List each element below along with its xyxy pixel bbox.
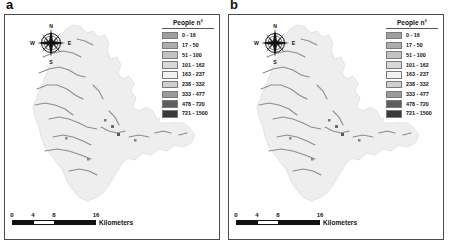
legend-swatch [386, 110, 402, 118]
legend-title-a: People n° [162, 19, 214, 29]
scalebar-unit-label: Kilometers [99, 219, 133, 227]
scale-tick: 0 [234, 211, 237, 219]
legend-item: 17 - 50 [162, 41, 214, 50]
scale-tick: 4 [255, 211, 258, 219]
scale-tick: 16 [317, 211, 324, 219]
legend-range-label: 333 - 477 [182, 91, 205, 98]
compass-label-east: E [292, 40, 296, 46]
legend-item: 721 - 1500 [386, 109, 438, 118]
legend-item: 333 - 477 [386, 90, 438, 99]
legend-swatch [162, 91, 178, 99]
legend-item: 17 - 50 [386, 41, 438, 50]
legend-swatch [162, 71, 178, 79]
legend-item: 238 - 332 [386, 80, 438, 89]
legend-range-label: 238 - 332 [182, 81, 205, 88]
map-panel-b: N S E W People n° 0 - 16 17 - 50 51 - 10… [228, 14, 444, 240]
scalebar-unit-label: Kilometers [323, 219, 357, 227]
legend-swatch [386, 42, 402, 50]
scalebar-ticks-a: 0 4 8 16 [12, 211, 137, 219]
panel-label-a: a [6, 0, 13, 12]
legend-range-label: 238 - 332 [406, 81, 429, 88]
legend-swatch [162, 81, 178, 89]
compass-rose-b: N S E W [253, 21, 297, 65]
legend-range-label: 0 - 16 [406, 32, 420, 39]
scalebar-a: 0 4 8 16 Kilometers [12, 211, 137, 233]
legend-swatch [162, 42, 178, 50]
compass-label-north: N [49, 23, 53, 29]
compass-label-west: W [254, 40, 259, 46]
legend-item: 101 - 162 [162, 60, 214, 69]
legend-item: 238 - 332 [162, 80, 214, 89]
legend-range-label: 721 - 1500 [182, 110, 208, 117]
legend-swatch [386, 61, 402, 69]
legend-item: 163 - 237 [162, 70, 214, 79]
scale-tick: 8 [52, 211, 55, 219]
scale-tick: 8 [276, 211, 279, 219]
legend-item: 163 - 237 [386, 70, 438, 79]
scale-segment [258, 221, 279, 224]
legend-a: People n° 0 - 16 17 - 50 51 - 100 101 - … [160, 17, 216, 122]
legend-range-label: 101 - 162 [406, 62, 429, 69]
legend-range-label: 17 - 50 [406, 42, 423, 49]
legend-swatch [162, 110, 178, 118]
legend-swatch [386, 91, 402, 99]
scale-tick: 16 [93, 211, 100, 219]
legend-range-label: 51 - 100 [406, 52, 426, 59]
scale-segment [278, 221, 319, 224]
scale-segment [34, 221, 55, 224]
legend-range-label: 163 - 237 [182, 71, 205, 78]
legend-range-label: 721 - 1500 [406, 110, 432, 117]
legend-range-label: 478 - 720 [182, 101, 205, 108]
scalebar-bar-b: Kilometers [236, 219, 361, 226]
scalebar-ticks-b: 0 4 8 16 [236, 211, 361, 219]
legend-title-b: People n° [386, 19, 438, 29]
legend-item: 478 - 720 [386, 99, 438, 108]
panel-label-b: b [230, 0, 238, 12]
scalebar-segments [236, 220, 320, 225]
compass-label-south: S [273, 59, 277, 65]
scale-segment [13, 221, 34, 224]
compass-label-east: E [68, 40, 72, 46]
legend-item: 721 - 1500 [162, 109, 214, 118]
legend-swatch [162, 100, 178, 108]
compass-rose-a: N S E W [29, 21, 73, 65]
scale-tick: 4 [31, 211, 34, 219]
legend-item: 51 - 100 [162, 51, 214, 60]
scalebar-bar-a: Kilometers [12, 219, 137, 226]
legend-range-label: 163 - 237 [406, 71, 429, 78]
legend-swatch [386, 32, 402, 40]
scale-segment [54, 221, 95, 224]
scale-segment [237, 221, 258, 224]
legend-item: 0 - 16 [162, 31, 214, 40]
legend-swatch [162, 51, 178, 59]
legend-b: People n° 0 - 16 17 - 50 51 - 100 101 - … [384, 17, 440, 122]
legend-item: 478 - 720 [162, 99, 214, 108]
legend-item: 333 - 477 [162, 90, 214, 99]
legend-item: 0 - 16 [386, 31, 438, 40]
scalebar-b: 0 4 8 16 Kilometers [236, 211, 361, 233]
legend-range-label: 51 - 100 [182, 52, 202, 59]
legend-range-label: 17 - 50 [182, 42, 199, 49]
compass-label-north: N [273, 23, 277, 29]
legend-swatch [162, 32, 178, 40]
compass-label-south: S [49, 59, 53, 65]
map-panel-a: N S E W People n° 0 - 16 17 - 50 51 - 10… [4, 14, 220, 240]
legend-swatch [386, 81, 402, 89]
legend-swatch [386, 71, 402, 79]
legend-item: 51 - 100 [386, 51, 438, 60]
legend-swatch [386, 51, 402, 59]
legend-item: 101 - 162 [386, 60, 438, 69]
legend-range-label: 0 - 16 [182, 32, 196, 39]
legend-swatch [162, 61, 178, 69]
legend-range-label: 478 - 720 [406, 101, 429, 108]
scale-tick: 0 [10, 211, 13, 219]
legend-range-label: 333 - 477 [406, 91, 429, 98]
legend-swatch [386, 100, 402, 108]
compass-label-west: W [30, 40, 35, 46]
scalebar-segments [12, 220, 96, 225]
figure-container: a [0, 0, 450, 249]
legend-range-label: 101 - 162 [182, 62, 205, 69]
